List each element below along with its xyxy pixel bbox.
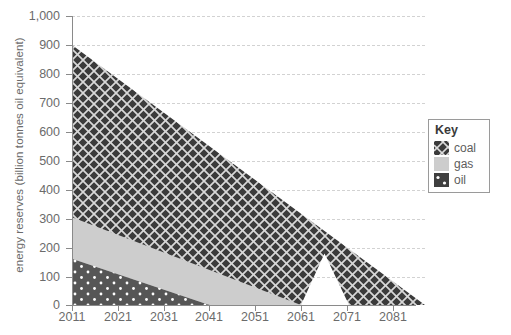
- y-tick-label-200: 200: [14, 242, 60, 255]
- legend-label-oil: oil: [454, 174, 466, 186]
- y-tick-label-600: 600: [14, 126, 60, 139]
- legend-item-oil[interactable]: oil: [434, 173, 484, 187]
- legend-label-coal: coal: [454, 142, 476, 154]
- y-tick-label-700: 700: [14, 97, 60, 110]
- legend-item-coal[interactable]: coal: [434, 141, 484, 155]
- y-tick-label-300: 300: [14, 213, 60, 226]
- dotted-swatch-icon: [434, 173, 449, 187]
- solid-gray-swatch-icon: [434, 157, 449, 171]
- chart-legend: Key coal gas oil: [428, 119, 490, 193]
- y-tick-label-100: 100: [14, 271, 60, 284]
- legend-title: Key: [435, 124, 484, 138]
- stacked-area-chart: energy reserves (billion tonnes oil equi…: [0, 0, 511, 335]
- y-tick-label-400: 400: [14, 184, 60, 197]
- y-tick-label-900: 900: [14, 39, 60, 52]
- series-areas: [72, 16, 425, 305]
- y-tick-label-500: 500: [14, 155, 60, 168]
- crosshatch-swatch-icon: [434, 141, 449, 155]
- legend-item-gas[interactable]: gas: [434, 157, 484, 171]
- y-axis-line: [72, 16, 73, 306]
- x-tick-label-2081: 2081: [363, 311, 423, 324]
- legend-label-gas: gas: [454, 158, 473, 170]
- x-axis-line: [72, 305, 416, 306]
- y-tick-label-800: 800: [14, 68, 60, 81]
- y-tick-label-1000: 1,000: [14, 10, 60, 23]
- plot-area: [72, 16, 425, 305]
- y-tick-label-0: 0: [14, 299, 60, 312]
